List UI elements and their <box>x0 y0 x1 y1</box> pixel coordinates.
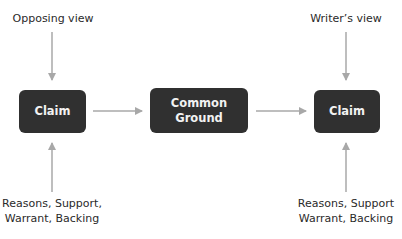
common-ground-line2: Ground <box>175 111 223 126</box>
support-right-line1: Reasons, Support <box>296 196 396 211</box>
common-ground-box: Common Ground <box>150 88 248 133</box>
writers-view-label: Writer’s view <box>296 11 396 26</box>
claim-box-right: Claim <box>314 90 380 133</box>
claim-box-left: Claim <box>19 90 86 133</box>
claim-right-text: Claim <box>329 104 365 119</box>
common-ground-line1: Common <box>171 96 227 111</box>
support-right-label: Reasons, Support Warrant, Backing <box>296 196 396 226</box>
claim-left-text: Claim <box>34 104 70 119</box>
support-left-label: Reasons, Support, Warrant, Backing <box>0 196 104 226</box>
support-left-line1: Reasons, Support, <box>0 196 104 211</box>
support-right-line2: Warrant, Backing <box>296 211 396 226</box>
support-left-line2: Warrant, Backing <box>0 211 104 226</box>
opposing-view-label: Opposing view <box>2 11 104 26</box>
